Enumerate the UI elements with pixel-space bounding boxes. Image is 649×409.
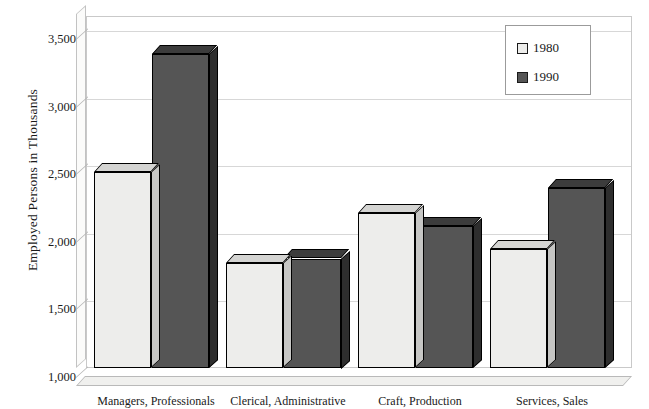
bar-top-face [416,217,481,226]
bar-front-face [284,259,341,369]
bar-top-face [226,254,291,263]
y-axis-tick-label: 1,500 [30,303,76,315]
bar-front-face [94,172,151,368]
bar-top-face [284,249,349,258]
bar-top-face [490,240,555,249]
y-axis-tick-label: 2,500 [30,168,76,180]
bar-1990-2 [284,14,341,386]
bar-side-face [283,254,292,368]
bar-1990-3 [416,14,473,386]
bar-1980-3 [358,14,415,386]
bar-side-face [605,180,614,368]
y-axis-tick-label: 3,000 [30,101,76,113]
bar-1980-4 [490,14,547,386]
bar-1990-1 [152,14,209,386]
bar-1980-2 [226,14,283,386]
bar-front-face [358,213,415,368]
bar-front-face [490,249,547,368]
bar-side-face [415,204,424,368]
plot-area: Managers, ProfessionalsClerical, Adminis… [76,14,632,386]
bar-front-face [152,54,209,368]
bar-side-face [151,164,160,368]
bar-top-face [358,204,423,213]
bar-front-face [548,188,605,368]
bar-top-face [94,163,159,172]
bar-side-face [547,241,556,368]
bar-side-face [341,250,350,368]
y-axis-tick-label: 2,000 [30,236,76,248]
x-axis-category-label: Services, Sales [468,394,636,409]
bar-1980-1 [94,14,151,386]
bar-front-face [416,226,473,368]
bar-side-face [473,218,482,368]
bar-top-face [548,179,613,188]
bar-1990-4 [548,14,605,386]
bar-side-face [209,46,218,368]
bar-top-face [152,45,217,54]
y-axis-tick-labels: 1,0001,5002,0002,5003,0003,500 [14,0,76,403]
y-axis-tick-label: 3,500 [30,33,76,45]
y-axis-tick-label: 1,000 [30,371,76,383]
bar-front-face [226,263,283,368]
